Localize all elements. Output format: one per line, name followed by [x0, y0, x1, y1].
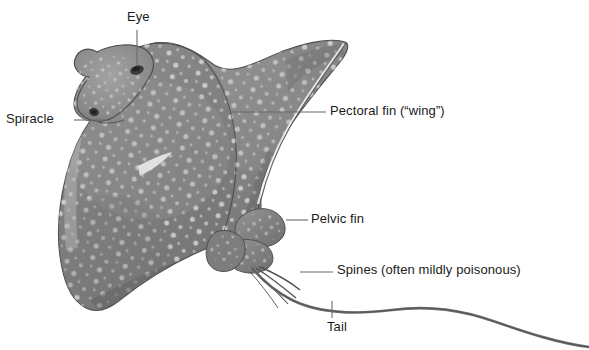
- label-tail: Tail: [327, 320, 347, 333]
- label-eye: Eye: [127, 10, 150, 23]
- label-spines: Spines (often mildly poisonous): [337, 263, 521, 276]
- label-pelvic-fin: Pelvic fin: [311, 212, 364, 225]
- ray-illustration: [50, 35, 589, 347]
- label-pectoral-fin: Pectoral fin (“wing”): [330, 104, 445, 117]
- tail-shape: [252, 268, 589, 347]
- label-spiracle: Spiracle: [6, 112, 54, 125]
- ray-anatomy-figure: [0, 0, 589, 350]
